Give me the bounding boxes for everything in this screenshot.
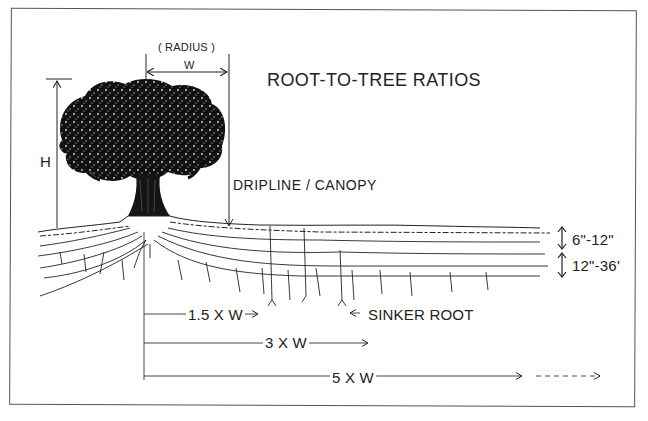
spread-label-1-5w: 1.5 X W (186, 307, 245, 322)
tree-root-illustration (0, 0, 648, 421)
ground-surface (38, 216, 550, 236)
depth-arrows (558, 227, 566, 277)
depth-label-shallow: 6"-12" (572, 232, 614, 247)
dripline-label: DRIPLINE / CANOPY (233, 178, 377, 192)
depth-label-deep: 12"-36' (572, 258, 620, 273)
spread-label-5w: 5 X W (330, 370, 376, 385)
spread-label-3w: 3 X W (263, 335, 309, 350)
width-label: W (182, 60, 197, 71)
height-label: H (40, 154, 51, 169)
tree-trunk (128, 175, 170, 216)
sinker-root-label: SINKER ROOT (368, 307, 474, 322)
diagram-title: ROOT-TO-TREE RATIOS (267, 71, 481, 89)
lateral-roots (38, 226, 548, 306)
tree-canopy (59, 79, 225, 181)
radius-label: ( RADIUS ) (158, 42, 215, 53)
